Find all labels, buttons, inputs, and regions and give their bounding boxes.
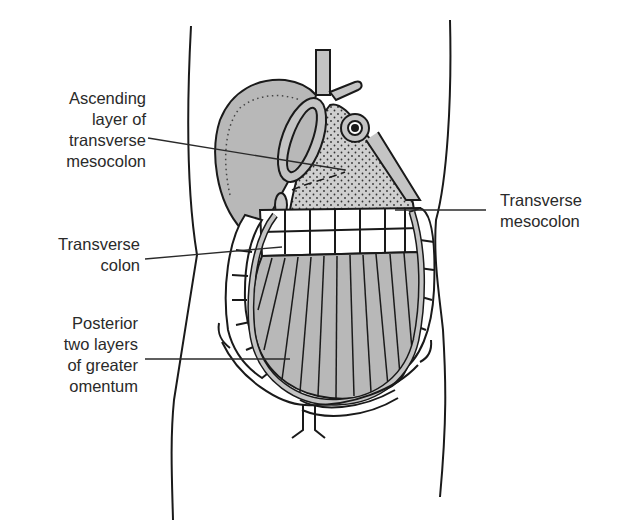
label-line: colon — [30, 255, 140, 276]
label-transverse-mesocolon: Transverse mesocolon — [500, 190, 582, 232]
label-line: mesocolon — [500, 211, 582, 232]
label-line: Posterior — [30, 313, 138, 334]
label-line: mesocolon — [30, 151, 146, 172]
label-ascending-layer-of-transverse-mesocolon: Ascending layer of transverse mesocolon — [30, 88, 146, 172]
label-line: Transverse — [500, 190, 582, 211]
label-transverse-colon: Transverse colon — [30, 234, 140, 276]
label-line: Ascending — [30, 88, 146, 109]
label-line: transverse — [30, 130, 146, 151]
transverse-colon-drawing — [260, 208, 420, 256]
label-line: layer of — [30, 109, 146, 130]
label-line: of greater — [30, 355, 138, 376]
label-line: Transverse — [30, 234, 140, 255]
label-posterior-two-layers-of-greater-omentum: Posterior two layers of greater omentum — [30, 313, 138, 397]
label-line: omentum — [30, 376, 138, 397]
label-line: two layers — [30, 334, 138, 355]
